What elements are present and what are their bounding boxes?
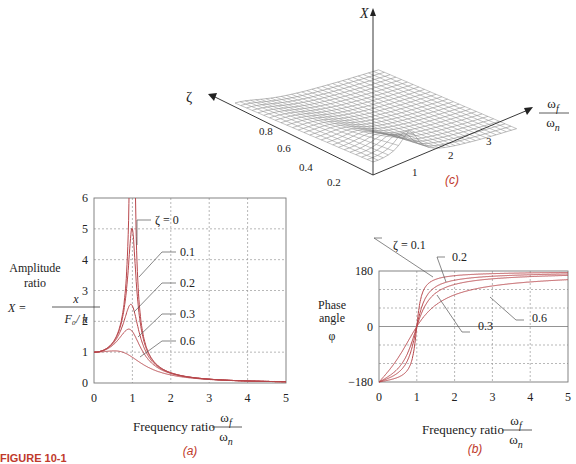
x-axis-numerator: ωf <box>220 410 233 428</box>
y-formula-lhs: X = <box>7 301 26 315</box>
x-tick-label: 0 <box>376 390 382 404</box>
series-label: ζ = 0 <box>155 213 179 227</box>
series-label: 0.3 <box>180 307 195 321</box>
y-tick-label: 1 <box>82 345 88 359</box>
freq-axis-denominator: ωn <box>546 115 560 133</box>
freq-tick-label: 1 <box>412 166 418 178</box>
series-label: 0.2 <box>452 250 467 264</box>
y-axis-label: angle <box>319 311 345 325</box>
y-axis-label: φ <box>329 329 336 343</box>
surface-mesh-line <box>312 89 450 146</box>
series-label: ζ = 0.1 <box>393 238 426 252</box>
x-axis-denominator: ωn <box>509 432 523 450</box>
x-tick-label: 5 <box>565 390 571 404</box>
series-label: 0.6 <box>180 334 195 348</box>
phase-angle-plot: 012345−1800180ζ = 0.10.20.30.6Phaseangle… <box>318 238 571 456</box>
y-axis-label: Amplitude <box>9 261 60 275</box>
y-tick-label: 4 <box>82 253 88 267</box>
phase-curve-zeta-0.6 <box>379 280 568 382</box>
zeta-axis-label: ζ <box>186 89 192 105</box>
figure-canvas: Xζωfωn0.20.40.60.8123(c) 0123450123456ζ … <box>0 0 576 464</box>
x-axis-label: Frequency ratio <box>133 419 215 434</box>
surface-mesh-line <box>235 103 373 162</box>
y-tick-label: 6 <box>82 191 88 205</box>
series-label: 0.3 <box>478 319 493 333</box>
y-axis-label: Phase <box>318 298 346 312</box>
zeta-tick-label: 0.8 <box>259 125 273 137</box>
surface-plot-c: Xζωfωn0.20.40.60.8123(c) <box>186 6 569 188</box>
series-label: 0.6 <box>532 311 547 325</box>
x-tick-label: 3 <box>206 391 212 405</box>
x-tick-label: 4 <box>527 390 533 404</box>
annotation-leader <box>137 220 151 245</box>
x-tick-label: 5 <box>283 391 289 405</box>
annotation-leader <box>490 297 524 320</box>
amplitude-ratio-plot: 0123450123456ζ = 00.10.20.30.6Amplituder… <box>7 183 289 458</box>
phase-curve-zeta-0.2 <box>379 274 568 382</box>
x-tick-label: 3 <box>489 390 495 404</box>
annotation-leader <box>134 283 176 312</box>
caption-a: (a) <box>183 444 198 458</box>
zeta-tick-label: 0.6 <box>277 142 291 154</box>
series-label: 0.1 <box>180 245 195 259</box>
z-axis-label: X <box>359 6 369 21</box>
x-axis-label: Frequency ratio <box>422 422 504 437</box>
y-formula-den: F₀/ k <box>63 312 88 326</box>
x-axis-denominator: ωn <box>219 429 233 447</box>
surface-mesh-line <box>353 78 491 137</box>
arrow-icon <box>370 8 376 16</box>
zeta-tick-label: 0.4 <box>299 161 313 173</box>
surface-mesh-line <box>358 76 496 135</box>
x-tick-label: 4 <box>245 391 251 405</box>
y-tick-label: 0 <box>82 376 88 390</box>
freq-tick-label: 3 <box>486 135 492 147</box>
series-label: 0.2 <box>180 276 195 290</box>
x-tick-label: 2 <box>168 391 174 405</box>
freq-axis-numerator: ωf <box>547 96 560 114</box>
y-tick-label: 3 <box>82 284 88 298</box>
y-tick-label: −180 <box>348 375 373 389</box>
freq-axis <box>373 110 528 175</box>
y-formula-num: x <box>72 292 79 306</box>
x-tick-label: 0 <box>91 391 97 405</box>
y-tick-label: 180 <box>355 264 373 278</box>
x-tick-label: 1 <box>414 390 420 404</box>
y-tick-label: 0 <box>367 320 373 334</box>
y-axis-label: ratio <box>24 276 46 290</box>
x-tick-label: 2 <box>452 390 458 404</box>
x-tick-label: 1 <box>129 391 135 405</box>
zeta-tick-label: 0.2 <box>327 176 341 188</box>
caption-c: (c) <box>445 173 459 187</box>
x-axis-numerator: ωf <box>510 413 523 431</box>
arrow-icon <box>524 107 533 115</box>
annotation-leader <box>138 314 176 337</box>
figure-label: FIGURE 10-1 <box>0 452 67 464</box>
y-tick-label: 5 <box>82 222 88 236</box>
phase-curve-zeta-0.3 <box>379 275 568 382</box>
caption-b: (b) <box>468 442 483 456</box>
freq-tick-label: 2 <box>448 149 454 161</box>
zeta-axis <box>215 97 373 175</box>
